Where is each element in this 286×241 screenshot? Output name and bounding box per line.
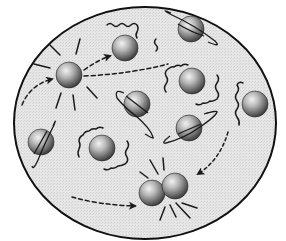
molecule-center-wiggle — [179, 68, 205, 94]
molecule-vibrating-left — [56, 62, 82, 88]
molecule-top-middle — [112, 35, 138, 61]
molecule-collision-b — [162, 173, 188, 199]
molecule-right-edge — [242, 91, 268, 117]
molecule-collision-a — [139, 180, 165, 206]
diagram-canvas — [0, 0, 286, 241]
molecule-lower-wiggle — [89, 135, 115, 161]
molecular-motion-diagram — [0, 0, 286, 241]
